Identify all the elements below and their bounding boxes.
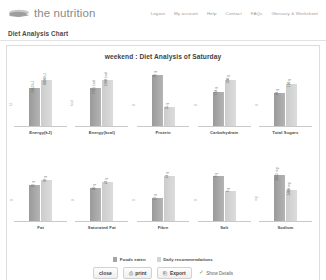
bar-foods-eaten[interactable]: 11 g [152,198,163,220]
y-axis-unit-label: g [70,199,74,201]
legend-label-foods-eaten: Foods eaten [120,257,146,262]
chart-plot-area: g61 g70 g [10,159,71,221]
chart-panel: kJ7463 kJ8800 kJEnergy(kJ) [10,64,71,159]
chart-row-1: kJ7463 kJ8800 kJEnergy(kJ)kcal1781 kcal2… [10,64,316,159]
bar-foods-eaten[interactable]: 1781 kcal [90,88,101,126]
bar-column: 24 g [164,159,175,221]
legend-item-foods-eaten: Foods eaten [113,257,145,262]
nav-item-logout[interactable]: Logout [151,11,165,16]
x-axis-baseline [75,126,128,127]
bar-value-label: 2400 mg [287,182,291,195]
action-bar: close ⎙ print ⎗ Export ✓ Show Details [7,264,319,280]
y-axis-unit-label: g [254,104,258,106]
bar-daily-recommendations[interactable]: 24 g [164,176,175,221]
bar-foods-eaten[interactable]: 61 g [29,185,40,221]
site-header: the nutrition Logout My account Help Con… [0,0,326,26]
bar-column: 8800 kJ [41,64,52,126]
x-axis-baseline [259,126,312,127]
bar-value-label: 6 g [226,187,230,192]
chart-category-label: Energy(kJ) [29,130,52,135]
x-axis-baseline [137,126,190,127]
chart-plot-area: g94 g120 g [255,64,316,126]
legend-swatch-daily-recommendations [157,257,161,262]
bar-daily-recommendations[interactable]: 2400 mg [286,190,297,221]
show-details-label: Show Details [206,271,233,276]
bar-foods-eaten[interactable]: 96 g [152,75,163,126]
bar-foods-eaten[interactable]: 9 g [213,176,224,221]
chart-plot-area: g11 g24 g [132,159,193,221]
x-axis-baseline [198,126,251,127]
show-details-toggle[interactable]: ✓ Show Details [199,270,233,276]
y-axis-unit-label: g [193,104,197,106]
chart-panel: g96 g55 gProtein [132,64,193,159]
chart-panel: g20 g24 gSaturated Fat [71,159,132,254]
bar-daily-recommendations[interactable]: 300 g [225,80,236,126]
bar-value-label: 61 g [31,180,35,187]
bar-value-label: 24 g [104,178,108,185]
bar-foods-eaten[interactable]: 194 g [213,92,224,126]
chart-plot-area: g96 g55 g [132,64,193,126]
chart-title: weekend : Diet Analysis of Saturday [7,46,319,60]
x-axis-baseline [259,221,312,222]
bar-foods-eaten[interactable]: 94 g [274,93,285,126]
chart-grid: kJ7463 kJ8800 kJEnergy(kJ)kcal1781 kcal2… [7,60,319,253]
bar-column: 11 g [152,159,163,221]
x-axis-baseline [198,221,251,222]
nav-item-contact[interactable]: Contact [226,11,242,16]
bar-daily-recommendations[interactable]: 2100 kcal [102,80,113,126]
nav-item-help[interactable]: Help [207,11,217,16]
bar-column: 2400 mg [286,159,297,221]
bar-foods-eaten[interactable]: 3562 mg [274,175,285,221]
bar-daily-recommendations[interactable]: 24 g [102,182,113,220]
nav-item-faqs[interactable]: FAQs [251,11,263,16]
bar-value-label: 96 g [153,71,157,78]
bar-daily-recommendations[interactable]: 70 g [41,180,52,221]
bar-daily-recommendations[interactable]: 6 g [225,191,236,221]
chart-legend: Foods eaten Daily recommendations [7,253,319,264]
bar-column: 55 g [164,64,175,126]
bar-daily-recommendations[interactable]: 120 g [286,84,297,126]
export-button[interactable]: ⎗ Export [157,267,191,279]
export-icon: ⎗ [163,271,167,276]
chart-plot-area: kJ7463 kJ8800 kJ [10,64,71,126]
bar-column: 3562 mg [274,159,285,221]
close-button-label: close [99,270,112,276]
bar-value-label: 2100 kcal [104,72,108,87]
bar-foods-eaten[interactable]: 7463 kJ [29,88,40,126]
x-axis-baseline [75,221,128,222]
bar-column: 96 g [152,64,163,126]
page-title: Diet Analysis Chart [8,30,68,37]
bar-value-label: 300 g [226,75,230,83]
close-button[interactable]: close [93,267,118,279]
chart-plot-area: g194 g300 g [194,64,255,126]
chart-category-label: Sodium [277,225,293,230]
bar-value-label: 194 g [214,87,218,95]
bar-value-label: 70 g [43,175,47,182]
nav-item-glossary-worksheet[interactable]: Glossary & Worksheet [271,11,318,16]
chart-category-label: Fat [37,225,44,230]
bar-daily-recommendations[interactable]: 8800 kJ [41,80,52,126]
logo[interactable]: the nutrition [8,7,95,19]
logo-text: the nutrition [34,7,95,19]
chart-plot-area: g20 g24 g [71,159,132,221]
chart-plot-area: kcal1781 kcal2100 kcal [71,64,132,126]
check-icon: ✓ [199,270,204,276]
bar-daily-recommendations[interactable]: 55 g [164,107,175,126]
leaf-logo-icon [8,8,30,19]
bar-foods-eaten[interactable]: 20 g [90,188,101,220]
bar-value-label: 11 g [153,194,157,200]
chart-plot-area: g9 g6 g [194,159,255,221]
nav-item-my-account[interactable]: My account [174,11,198,16]
bar-value-label: 120 g [287,79,291,87]
main-nav: Logout My account Help Contact FAQs Glos… [151,11,320,16]
y-axis-unit-label: g [131,199,135,201]
bar-column: 20 g [90,159,101,221]
y-axis-unit-label: g [9,199,13,201]
y-axis-unit-label: g [131,104,135,106]
bar-column: 9 g [213,159,224,221]
print-button[interactable]: ⎙ print [123,267,153,279]
bar-column: 2100 kcal [102,64,113,126]
bar-column: 94 g [274,64,285,126]
x-axis-baseline [14,126,67,127]
bar-value-label: 9 g [214,173,218,178]
